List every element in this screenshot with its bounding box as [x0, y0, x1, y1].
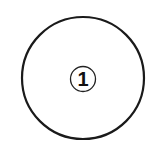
number-badge-label: 1: [77, 68, 88, 90]
diagram-canvas: 1: [0, 0, 160, 152]
